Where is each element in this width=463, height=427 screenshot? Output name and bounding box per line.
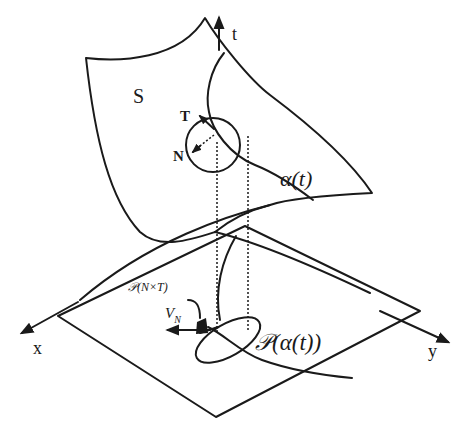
projected-binormal-vector: [188, 300, 218, 334]
label-projected-curve: 𝒫(α(t)): [255, 330, 321, 355]
label-projected-binormal: 𝒫(N×T): [128, 280, 168, 294]
label-vn: VN: [165, 305, 182, 325]
surface-projection-diagram: S t T N α(t) x y 𝒫(α(t)) 𝒫(N×T) VN: [0, 0, 463, 427]
label-t-axis: t: [232, 24, 237, 44]
x-axis: [22, 302, 78, 333]
label-surface-s: S: [133, 85, 144, 107]
label-x-axis: x: [33, 338, 42, 358]
label-curve-alpha: α(t): [280, 166, 312, 191]
curve-alpha-lower: [218, 236, 236, 320]
xy-plane: [58, 226, 420, 417]
label-tangent: T: [180, 108, 190, 124]
label-normal: N: [173, 148, 184, 164]
label-y-axis: y: [428, 341, 437, 361]
normal-vector: [193, 135, 214, 152]
